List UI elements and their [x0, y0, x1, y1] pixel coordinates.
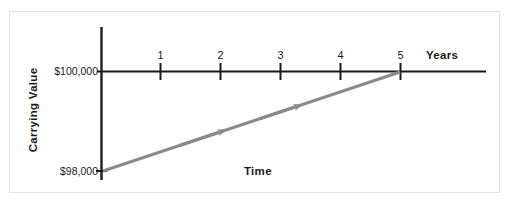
x-tick-label-3: 3: [270, 50, 291, 61]
series-arrow-2: [260, 107, 296, 119]
x-tick-label-5: 5: [390, 50, 411, 61]
series-arrow-1: [180, 132, 220, 145]
x-tick-label-1: 1: [150, 50, 171, 61]
series-line-carrying-value: [103, 72, 400, 171]
y-label-98000: $98,000: [42, 166, 98, 177]
x-tick-label-4: 4: [330, 50, 351, 61]
x-axis-title-years: Years: [426, 50, 458, 62]
chart-figure: Carrying Value $100,000 $98,000 1 2 3 4 …: [0, 0, 515, 204]
x-tick-label-2: 2: [210, 50, 231, 61]
y-label-100000: $100,000: [42, 66, 98, 77]
x-axis-caption-time: Time: [244, 166, 272, 178]
y-axis-title: Carrying Value: [27, 68, 39, 153]
